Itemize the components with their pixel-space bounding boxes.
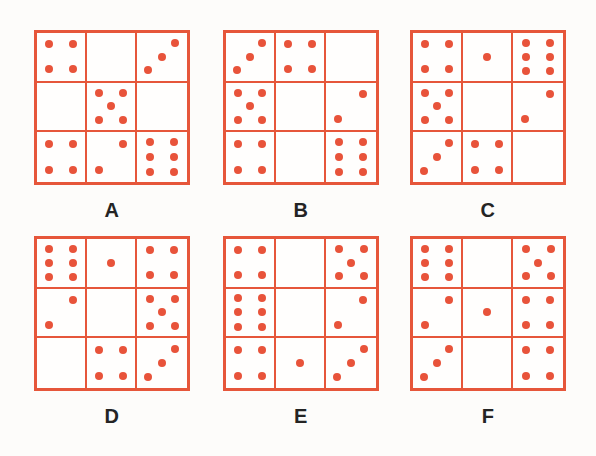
dot-cell[interactable]: [413, 83, 463, 133]
dot-cell[interactable]: [513, 33, 563, 83]
dot-cell[interactable]: [87, 239, 137, 289]
panel-e[interactable]: E: [223, 236, 379, 428]
dot-cell[interactable]: [276, 33, 326, 83]
dot-marker: [69, 166, 77, 174]
dot-cell[interactable]: [87, 83, 137, 133]
dot-cell[interactable]: [87, 338, 137, 388]
dot-marker: [170, 168, 178, 176]
dot-marker: [107, 259, 115, 267]
dot-cell[interactable]: [463, 239, 513, 289]
dot-cell[interactable]: [413, 289, 463, 339]
dot-cell[interactable]: [276, 83, 326, 133]
dot-cell[interactable]: [226, 33, 276, 83]
dot-cell[interactable]: [326, 289, 376, 339]
dot-marker: [258, 166, 266, 174]
dot-marker: [171, 39, 179, 47]
dot-marker: [308, 40, 316, 48]
dot-cell[interactable]: [513, 289, 563, 339]
dot-marker: [258, 271, 266, 279]
dot-marker: [334, 321, 342, 329]
dot-marker: [433, 359, 441, 367]
dot-cell[interactable]: [137, 289, 187, 339]
dot-cell[interactable]: [513, 83, 563, 133]
dot-marker: [546, 67, 554, 75]
dot-cell[interactable]: [37, 132, 87, 182]
dot-marker: [421, 273, 429, 281]
dot-cell[interactable]: [137, 83, 187, 133]
dot-marker: [546, 90, 554, 98]
dot-cell[interactable]: [463, 83, 513, 133]
panel-d[interactable]: D: [34, 236, 190, 428]
dot-cell[interactable]: [513, 239, 563, 289]
dot-cell[interactable]: [413, 338, 463, 388]
dot-marker: [521, 115, 529, 123]
dot-cell[interactable]: [513, 132, 563, 182]
dot-cell[interactable]: [276, 132, 326, 182]
dot-cell[interactable]: [137, 132, 187, 182]
dot-cell[interactable]: [87, 289, 137, 339]
dot-marker: [69, 245, 77, 253]
dot-marker: [445, 65, 453, 73]
dot-cell[interactable]: [226, 239, 276, 289]
dot-cell[interactable]: [226, 83, 276, 133]
dot-cell[interactable]: [463, 132, 513, 182]
dot-marker: [534, 259, 542, 267]
dot-cell[interactable]: [87, 132, 137, 182]
dot-marker: [45, 245, 53, 253]
dot-cell[interactable]: [413, 239, 463, 289]
dot-cell[interactable]: [37, 33, 87, 83]
dot-cell[interactable]: [276, 239, 326, 289]
dot-marker: [246, 102, 254, 110]
dot-grid-e[interactable]: [223, 236, 379, 391]
dot-cell[interactable]: [326, 338, 376, 388]
dot-marker: [45, 166, 53, 174]
dot-marker: [234, 294, 242, 302]
panel-b[interactable]: B: [223, 30, 379, 222]
dot-marker: [234, 140, 242, 148]
dot-marker: [334, 115, 342, 123]
dot-marker: [119, 346, 127, 354]
dot-cell[interactable]: [276, 289, 326, 339]
dot-grid-c[interactable]: [410, 30, 566, 185]
dot-cell[interactable]: [226, 132, 276, 182]
panel-label-b: B: [223, 199, 379, 222]
panel-c[interactable]: C: [410, 30, 566, 222]
dot-cell[interactable]: [513, 338, 563, 388]
dot-marker: [296, 359, 304, 367]
dot-cell[interactable]: [326, 132, 376, 182]
dot-marker: [170, 138, 178, 146]
dot-cell[interactable]: [37, 239, 87, 289]
dot-grid-a[interactable]: [34, 30, 190, 185]
dot-cell[interactable]: [226, 289, 276, 339]
dot-marker: [69, 140, 77, 148]
dot-cell[interactable]: [326, 239, 376, 289]
dot-cell[interactable]: [413, 132, 463, 182]
dot-marker: [45, 65, 53, 73]
dot-cell[interactable]: [226, 338, 276, 388]
dot-cell[interactable]: [137, 338, 187, 388]
dot-marker: [360, 272, 368, 280]
dot-cell[interactable]: [37, 338, 87, 388]
dot-cell[interactable]: [137, 239, 187, 289]
dot-cell[interactable]: [326, 83, 376, 133]
dot-cell[interactable]: [463, 289, 513, 339]
panel-label-e: E: [223, 405, 379, 428]
panel-f[interactable]: F: [410, 236, 566, 428]
dot-marker: [471, 166, 479, 174]
dot-cell[interactable]: [37, 289, 87, 339]
dot-cell[interactable]: [276, 338, 326, 388]
dot-grid-f[interactable]: [410, 236, 566, 391]
dot-marker: [258, 372, 266, 380]
dot-cell[interactable]: [463, 33, 513, 83]
dot-marker: [495, 166, 503, 174]
dot-cell[interactable]: [37, 83, 87, 133]
dot-marker: [234, 116, 242, 124]
panel-a[interactable]: A: [34, 30, 190, 222]
dot-cell[interactable]: [87, 33, 137, 83]
dot-cell[interactable]: [413, 33, 463, 83]
dot-cell[interactable]: [463, 338, 513, 388]
dot-grid-d[interactable]: [34, 236, 190, 391]
dot-grid-b[interactable]: [223, 30, 379, 185]
dot-cell[interactable]: [137, 33, 187, 83]
dot-cell[interactable]: [326, 33, 376, 83]
